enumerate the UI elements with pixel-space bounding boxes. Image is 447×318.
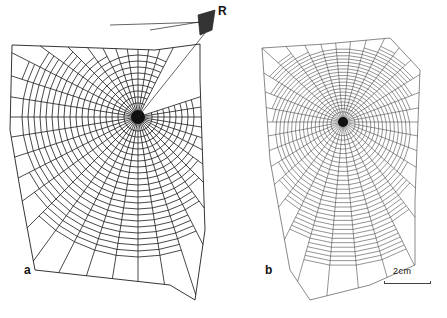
panel-label-a: a [24,263,31,277]
scale-bar-label: 2cm [393,266,412,276]
panel-label-b: b [265,263,272,277]
hub-b [338,117,348,127]
web-panel-b [262,38,420,300]
scale-bar [384,283,431,284]
retreat-label: R [218,4,227,18]
spider-web-figure [0,0,447,318]
web-panel-a [10,44,205,300]
